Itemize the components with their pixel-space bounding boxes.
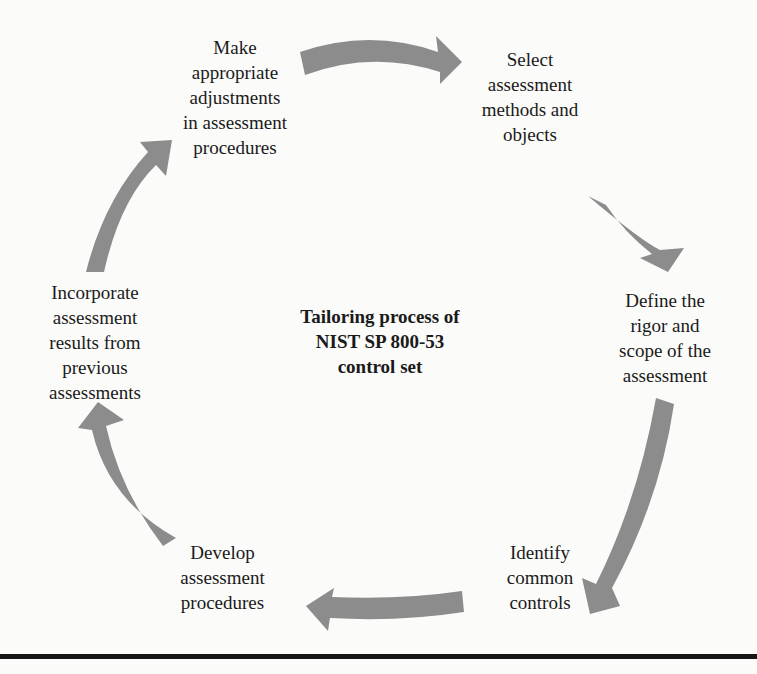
step-incorporate-results: Incorporate assessment results from prev… xyxy=(25,280,165,405)
tailoring-cycle-diagram: Make appropriate adjustments in assessme… xyxy=(0,0,757,674)
step-adjust-procedures: Make appropriate adjustments in assessme… xyxy=(160,35,310,160)
step-identify-common-controls: Identify common controls xyxy=(480,540,600,615)
step-develop-procedures: Develop assessment procedures xyxy=(160,540,285,615)
page-divider xyxy=(0,654,757,659)
step-select-methods: Select assessment methods and objects xyxy=(460,47,600,147)
diagram-center-title: Tailoring process of NIST SP 800-53 cont… xyxy=(280,304,480,379)
arrow-adjust-to-select xyxy=(300,36,462,84)
arrow-develop-to-incorporate xyxy=(78,402,176,546)
arrow-select-to-define xyxy=(588,196,684,272)
arrow-identify-to-develop xyxy=(306,588,464,631)
step-define-rigor-scope: Define the rigor and scope of the assess… xyxy=(600,288,730,388)
